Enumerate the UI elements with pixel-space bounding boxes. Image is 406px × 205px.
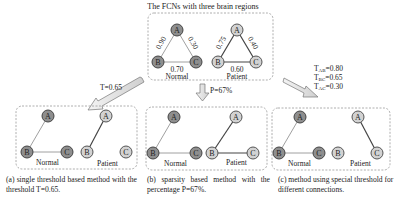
node-c: C xyxy=(190,56,202,68)
node-c: C xyxy=(61,146,73,158)
svg-text:A: A xyxy=(297,113,303,122)
svg-text:B: B xyxy=(215,58,220,67)
patient-label: Patient xyxy=(227,72,249,81)
node-a: A xyxy=(230,111,242,123)
svg-text:C: C xyxy=(64,148,69,157)
arrow-right-icon xyxy=(283,78,318,97)
svg-text:A: A xyxy=(234,26,240,35)
node-b: B xyxy=(147,147,159,159)
top-patient-graph: 0.75 0.40 0.60 Patient A B C xyxy=(212,24,262,81)
normal-label: Normal xyxy=(164,159,187,168)
patient-label: Patient xyxy=(97,159,119,168)
top-title: The FCNs with three brain regions xyxy=(147,2,258,11)
node-b: B xyxy=(81,146,93,158)
svg-text:B: B xyxy=(276,149,281,158)
node-a: A xyxy=(168,111,180,123)
panel-a: A B C A B C Normal Patient xyxy=(16,106,137,169)
caption-c: (c) method using special threshold for d… xyxy=(278,175,402,195)
node-c: C xyxy=(190,147,202,159)
node-c: C xyxy=(247,147,259,159)
node-b: B xyxy=(332,147,344,159)
threshold-ac: TAC=0.30 xyxy=(314,82,343,91)
node-b: B xyxy=(21,146,33,158)
arrow-down-icon xyxy=(196,84,209,101)
svg-text:B: B xyxy=(209,149,214,158)
node-a: A xyxy=(294,111,306,123)
svg-text:A: A xyxy=(355,113,361,122)
normal-label: Normal xyxy=(288,159,311,168)
node-b: B xyxy=(273,147,285,159)
svg-text:C: C xyxy=(250,149,255,158)
svg-text:A: A xyxy=(171,113,177,122)
svg-text:C: C xyxy=(193,58,198,67)
node-c: C xyxy=(371,147,383,159)
arrow-left-icon xyxy=(88,77,144,110)
arrow-middle: P=67% xyxy=(196,84,232,101)
patient-label: Patient xyxy=(226,158,248,167)
node-a: A xyxy=(231,24,243,36)
svg-text:C: C xyxy=(374,149,379,158)
normal-label: Normal xyxy=(36,158,59,167)
caption-b: (b) sparsity based method with the perce… xyxy=(147,175,270,195)
node-c: C xyxy=(313,147,325,159)
svg-text:B: B xyxy=(150,149,155,158)
panel-c: A B C A B C Normal Patient xyxy=(272,108,390,170)
svg-text:A: A xyxy=(233,113,239,122)
arrow-middle-label: P=67% xyxy=(210,86,232,95)
node-a: A xyxy=(352,111,364,123)
svg-text:C: C xyxy=(123,148,128,157)
threshold-ab: TAB=0.80 xyxy=(314,64,343,73)
svg-text:B: B xyxy=(335,149,340,158)
normal-label: Normal xyxy=(166,72,189,81)
top-normal-graph: 0.90 0.30 0.70 Normal A B C xyxy=(152,24,202,81)
patient-label: Patient xyxy=(350,159,372,168)
node-b: B xyxy=(206,147,218,159)
node-a: A xyxy=(42,110,54,122)
svg-text:C: C xyxy=(253,58,258,67)
svg-text:A: A xyxy=(174,26,180,35)
svg-text:A: A xyxy=(45,112,51,121)
svg-text:C: C xyxy=(316,149,321,158)
svg-text:B: B xyxy=(24,148,29,157)
node-a: A xyxy=(100,110,112,122)
svg-text:C: C xyxy=(193,149,198,158)
arrow-left: T=0.65 xyxy=(88,77,144,110)
node-b: B xyxy=(212,56,224,68)
node-c: C xyxy=(120,146,132,158)
threshold-bc: TBC=0.65 xyxy=(314,73,343,82)
node-b: B xyxy=(152,56,164,68)
arrow-right: TAB=0.80 TBC=0.65 TAC=0.30 xyxy=(283,64,343,97)
caption-a: (a) single threshold based method with t… xyxy=(6,175,137,195)
arrow-left-label: T=0.65 xyxy=(100,83,122,92)
svg-text:B: B xyxy=(155,58,160,67)
panel-b: A B C A B C Normal Patient xyxy=(146,107,267,170)
node-a: A xyxy=(171,24,183,36)
svg-text:A: A xyxy=(103,112,109,121)
svg-text:B: B xyxy=(84,148,89,157)
node-c: C xyxy=(250,56,262,68)
